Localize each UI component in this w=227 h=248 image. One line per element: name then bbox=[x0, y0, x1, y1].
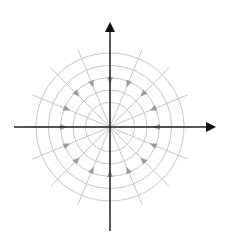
sink-vector-field-diagram bbox=[0, 0, 227, 248]
x-axis-arrowhead-icon bbox=[206, 122, 216, 132]
radial-line bbox=[51, 68, 110, 127]
radial-line bbox=[110, 127, 169, 186]
y-axis-arrowhead-icon bbox=[105, 22, 115, 32]
radial-line bbox=[110, 68, 169, 127]
radial-line bbox=[51, 127, 110, 186]
